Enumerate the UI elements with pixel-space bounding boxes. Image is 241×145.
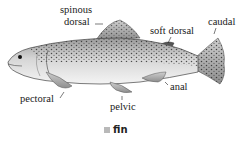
label-spinous-dorsal-line2: dorsal — [64, 17, 90, 27]
label-soft-dorsal: soft dorsal — [150, 26, 194, 36]
label-pectoral: pectoral — [20, 94, 54, 104]
fish-fin-diagram: spinous dorsal soft dorsal caudal pector… — [0, 0, 241, 145]
caption-marker-icon — [104, 127, 110, 133]
label-spinous-dorsal-line1: spinous — [60, 5, 92, 15]
caption-term: fin — [113, 124, 128, 135]
label-anal: anal — [170, 82, 188, 92]
fish-eye — [18, 55, 22, 59]
label-caudal: caudal — [208, 17, 235, 27]
label-pelvic: pelvic — [110, 102, 136, 112]
dictionary-caption: fin — [104, 124, 128, 135]
